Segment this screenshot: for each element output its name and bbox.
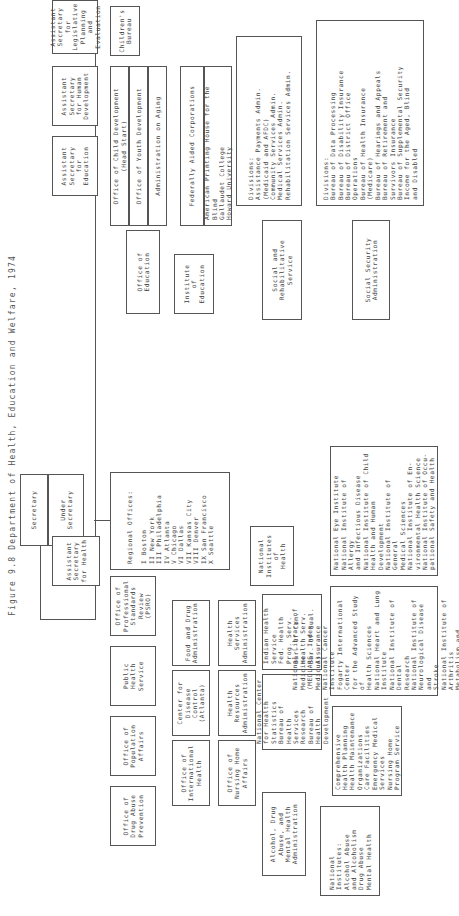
spine-sec (40, 546, 41, 620)
asst-sec-health: Assistant Secretary for Health (52, 536, 100, 586)
secretary-box: Secretary (20, 474, 48, 546)
federally-aided-corporations: Federally Aided Corporations (180, 66, 204, 226)
under-secretary-label: Under Secretary (59, 491, 74, 530)
spine-left (40, 619, 95, 620)
connector (94, 520, 110, 521)
asst-sec-legislative-planning: Assistant Secretary for Legislative Plan… (52, 0, 98, 54)
institute-of-education: Institute of Education (174, 254, 214, 314)
nih-box: National Institutes of Health (250, 526, 294, 586)
asst-sec-education: Assistant Secretary for Education (52, 136, 98, 196)
srs-divisions: Divisions: Assistance Payments Admin. (M… (236, 36, 302, 206)
asst-sec-human-development: Assistant Secretary for Human Developmen… (52, 66, 98, 126)
secretary-label: Secretary (30, 491, 37, 530)
childrens-bureau: Children's Bureau (110, 6, 140, 56)
international-health-box: Office of International Health (172, 740, 210, 806)
hra-box: Health Resources Administration (218, 670, 256, 736)
office-child-development: Office of Child Development (Head Start) (110, 66, 129, 226)
regional-offices-list: Regional Offices: I Boston II New York I… (126, 490, 215, 564)
hsa-programs: Comprehensive Health Planning Health Mai… (332, 706, 402, 796)
hsa-box: Health Services Administration (218, 600, 256, 666)
nursing-home-box: Office of Nursing Home Affairs (218, 740, 256, 806)
office-drug-abuse-prevention: Office of Drug Abuse Prevention (110, 786, 156, 846)
office-youth-development: Office of Youth Development (129, 66, 148, 226)
fda-box: Food and Drug Administration (172, 600, 210, 666)
ssa-box: Social Security Administration (352, 220, 390, 320)
regional-offices-box: Regional Offices: I Boston II New York I… (110, 472, 230, 570)
office-population-affairs: Office of Population Affairs (110, 716, 156, 776)
adamha-institutes: National Institutes: Alcohol Abuse and A… (320, 806, 380, 896)
nih-institutes-1: National Library of Medicine (MEDLARS, I… (330, 586, 438, 696)
srs-box: Social and Rehabilitative Service (262, 220, 302, 320)
figure-title: Figure 9.8 Department of Health, Educati… (8, 255, 17, 616)
org-chart: Figure 9.8 Department of Health, Educati… (0, 0, 459, 916)
administration-on-aging: Administration on Aging (148, 66, 167, 226)
adamha-box: Alcohol, Drug Abuse, and Mental Health A… (262, 792, 306, 876)
office-of-education-box: Office of Education (126, 230, 160, 314)
ssa-divisions: Divisions: Bureau of Data Processing Bur… (316, 20, 424, 206)
public-health-service: Public Health Service (110, 646, 156, 706)
nih-institutes-2: National Eye Institute National Institut… (330, 446, 438, 576)
psro-box: Office of Professional Standards Review … (110, 576, 156, 636)
cdc-box: Center for Disease Control (Atlanta) (172, 670, 210, 736)
federally-aided-list: American Printing House for the Blind Ga… (204, 66, 232, 226)
